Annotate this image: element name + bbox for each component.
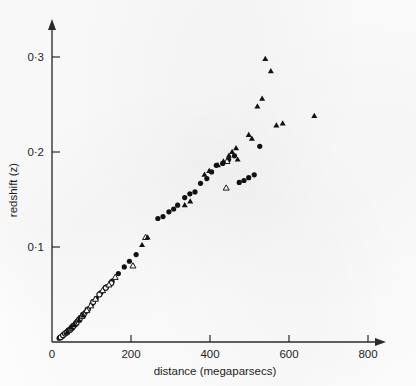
data-point-filled-circle [241,178,246,183]
y-tick-label: 0·3 [27,51,44,63]
y-axis-ticks: 0·10·20·3 [27,51,60,253]
data-point-filled-circle [122,264,127,269]
data-point-filled-triangle [268,68,274,73]
data-point-filled-triangle [139,242,145,247]
data-point-filled-circle [134,252,139,257]
data-point-filled-triangle [311,113,317,118]
data-point-filled-circle [166,209,171,214]
x-axis-arrowhead [375,338,386,346]
data-point-filled-triangle [182,202,188,207]
x-tick-label: 0 [49,348,55,360]
scatter-plot-canvas: 0200400600800 0·10·20·3 distance (megapa… [0,0,416,386]
data-point-layer [57,56,318,341]
data-point-filled-circle [237,180,242,185]
x-tick-label: 200 [121,348,140,360]
data-point-filled-circle [246,175,251,180]
hubble-diagram-figure: 0200400600800 0·10·20·3 distance (megapa… [0,0,416,386]
data-point-filled-circle [127,259,132,264]
data-point-filled-circle [175,203,180,208]
y-tick-label: 0·1 [27,241,44,253]
data-point-filled-triangle [259,96,265,101]
data-point-filled-circle [192,189,197,194]
y-axis-title: redshift (z) [7,163,19,217]
data-point-filled-triangle [254,103,260,108]
data-point-filled-triangle [273,122,279,127]
data-point-filled-circle [257,144,262,149]
data-point-filled-triangle [233,145,239,150]
data-point-filled-circle [252,172,257,177]
data-point-filled-circle [155,216,160,221]
data-point-open-triangle [223,185,229,190]
data-point-filled-circle [171,206,176,211]
data-point-filled-triangle [280,120,286,125]
x-tick-label: 400 [200,348,219,360]
y-tick-label: 0·2 [27,146,44,158]
data-point-filled-circle [116,271,121,276]
data-point-filled-triangle [187,198,193,203]
x-tick-label: 800 [358,348,377,360]
data-point-filled-circle [182,195,187,200]
data-point-filled-triangle [246,132,252,137]
x-axis-ticks: 0200400600800 [49,335,378,360]
x-tick-label: 600 [279,348,298,360]
series-open-triangle [67,158,230,330]
y-axis-arrowhead [48,19,56,30]
x-axis-title: distance (megaparsecs) [154,365,277,377]
data-point-filled-circle [160,214,165,219]
data-point-filled-triangle [262,56,268,61]
data-point-filled-circle [187,191,192,196]
data-point-filled-circle [198,181,203,186]
data-point-open-triangle [130,263,136,268]
